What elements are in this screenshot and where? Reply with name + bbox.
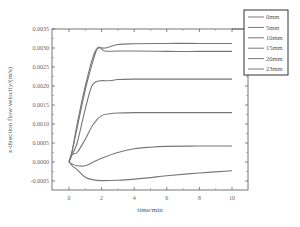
x-tick-label: 2 bbox=[100, 195, 103, 201]
y-tick-label: 0.0015 bbox=[33, 102, 50, 108]
legend-item: 20mm bbox=[266, 55, 283, 62]
series-line-23mm bbox=[69, 162, 232, 181]
chart-canvas: -0.00050.00000.00050.00100.00150.00200.0… bbox=[0, 0, 300, 227]
series-lines bbox=[69, 43, 232, 180]
legend-item: 10mm bbox=[266, 34, 283, 41]
x-axis-title: time/min bbox=[137, 206, 163, 214]
legend-item: 23mm bbox=[266, 65, 283, 72]
legend-item: 0mm bbox=[266, 13, 279, 20]
series-line-10mm bbox=[69, 79, 232, 162]
legend-item: 5mm bbox=[266, 24, 279, 31]
y-tick-label: 0.0025 bbox=[33, 64, 50, 70]
y-tick-label: 0.0030 bbox=[33, 45, 50, 51]
y-axis-title: z-direction flow velocity/(m/s) bbox=[6, 66, 14, 153]
y-tick-label: 0.0000 bbox=[33, 159, 50, 165]
y-tick-label: 0.0010 bbox=[33, 121, 50, 127]
x-tick-label: 10 bbox=[229, 195, 235, 201]
y-tick-label: 0.0020 bbox=[33, 83, 50, 89]
x-tick-label: 0 bbox=[68, 195, 71, 201]
x-tick-label: 8 bbox=[198, 195, 201, 201]
y-axis: -0.00050.00000.00050.00100.00150.00200.0… bbox=[31, 26, 249, 184]
legend: 0mm5mm10mm15mm20mm23mm bbox=[232, 10, 288, 75]
series-line-20mm bbox=[69, 146, 232, 166]
legend-item: 15mm bbox=[266, 44, 283, 51]
series-line-5mm bbox=[69, 47, 232, 162]
y-tick-label: 0.0005 bbox=[33, 140, 50, 146]
series-line-15mm bbox=[69, 113, 232, 162]
x-tick-label: 6 bbox=[165, 195, 168, 201]
y-tick-label: -0.0005 bbox=[31, 178, 50, 184]
y-tick-label: 0.0035 bbox=[33, 26, 50, 32]
x-axis: 0246810 bbox=[68, 29, 236, 201]
x-tick-label: 4 bbox=[133, 195, 136, 201]
